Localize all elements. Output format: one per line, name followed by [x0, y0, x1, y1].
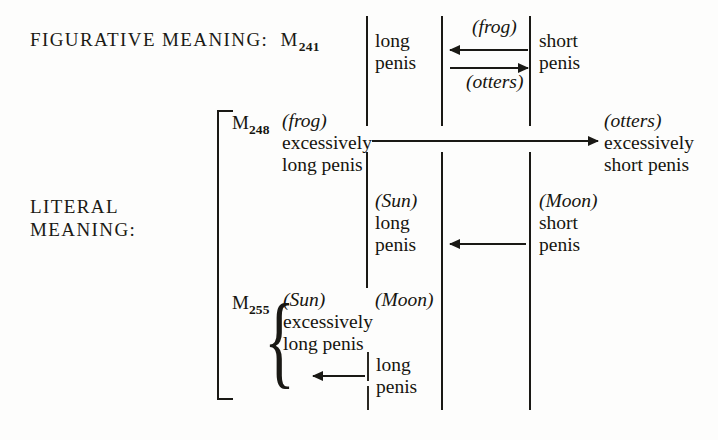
cell-line-paren-moon: (Moon): [375, 289, 433, 310]
cell-m255-long-penis: long penis: [376, 354, 417, 398]
arrow-shaft: [372, 140, 598, 142]
arrow-shaft: [450, 49, 528, 51]
cell-line-paren-moon: (Moon): [539, 190, 597, 212]
cell-literal-moon-short-penis: (Moon) short penis: [539, 190, 597, 257]
cell-figurative-long-penis: long penis: [375, 30, 416, 74]
myth-label-m248: M248: [232, 112, 270, 138]
column-rule-b-seg2: [441, 152, 443, 410]
cell-m248-otters-excessively-short-penis: (otters) excessively short penis: [604, 110, 694, 177]
cell-line-long-penis: long penis: [283, 333, 373, 355]
cell-line-short: short: [539, 30, 580, 52]
arrow-head-left: [449, 45, 460, 55]
group-bracket-m248-m255: [217, 110, 233, 400]
arrow-head-left: [312, 371, 323, 381]
cell-figurative-short-penis: short penis: [539, 30, 580, 74]
literal-meaning-label-line2: MEANING:: [30, 219, 136, 241]
cell-line-penis: penis: [376, 376, 417, 398]
column-rule-a-seg4: [367, 386, 369, 410]
cell-line-penis: penis: [539, 52, 580, 74]
figurative-meaning-label: FIGURATIVE MEANING: M241: [30, 29, 320, 55]
cell-line-penis: penis: [375, 52, 416, 74]
cell-line-excessively: excessively: [282, 132, 372, 154]
myth-sub-m248: 248: [249, 122, 270, 137]
column-rule-c-seg2: [529, 152, 531, 410]
myth-label-m241: M241: [274, 29, 319, 50]
column-rule-a-seg3: [367, 352, 369, 381]
arrow-head-right: [588, 136, 599, 146]
arrow-m248-frog-to-otters: [372, 136, 598, 146]
cell-line-penis: penis: [539, 234, 597, 256]
figure-canvas: FIGURATIVE MEANING: M241 LITERAL MEANING…: [0, 0, 718, 440]
column-rule-c-seg1: [529, 16, 531, 126]
cell-line-short-penis: short penis: [604, 154, 694, 176]
cell-line-long-penis: long penis: [282, 154, 372, 176]
myth-sub-m241: 241: [299, 39, 320, 54]
column-rule-b-seg1: [441, 16, 443, 126]
cell-line-long: long: [375, 212, 417, 234]
cell-line-long: long: [375, 30, 416, 52]
cell-m255-sun-excessively-long-penis: (Sun) excessively long penis: [283, 289, 373, 356]
cell-line-short: short: [539, 212, 597, 234]
arrow-otters-label: (otters): [466, 71, 523, 93]
cell-literal-sun-long-penis: (Sun) long penis: [375, 190, 417, 257]
myth-base-m241: M: [281, 29, 299, 50]
cell-line-penis: penis: [375, 234, 417, 256]
arrow-frog-label-text: (frog): [472, 16, 517, 37]
myth-base-m255: M: [232, 292, 249, 313]
cell-line-paren-frog: (frog): [282, 110, 372, 132]
cell-m255-paren-moon: (Moon): [375, 289, 433, 311]
cell-m248-frog-excessively-long-penis: (frog) excessively long penis: [282, 110, 372, 177]
literal-meaning-label-line1: LITERAL: [30, 196, 119, 218]
arrow-frog-label: (frog): [472, 16, 517, 38]
cell-line-paren-sun: (Sun): [375, 190, 417, 212]
arrow-frog-right-to-left: [450, 45, 528, 55]
arrow-m255-long-penis-to-left: [313, 371, 365, 381]
cell-line-paren-sun: (Sun): [283, 289, 373, 311]
cell-line-paren-otters: (otters): [604, 110, 694, 132]
myth-base-m248: M: [232, 112, 249, 133]
arrow-shaft: [450, 243, 526, 245]
arrow-otters-label-text: (otters): [466, 71, 523, 92]
arrow-head-left: [449, 239, 460, 249]
arrow-moon-to-sun: [450, 239, 526, 249]
cell-line-long: long: [376, 354, 417, 376]
cell-line-excessively: excessively: [283, 311, 373, 333]
cell-line-excessively: excessively: [604, 132, 694, 154]
arrow-shaft: [450, 67, 528, 69]
figurative-meaning-text: FIGURATIVE MEANING:: [30, 29, 268, 50]
